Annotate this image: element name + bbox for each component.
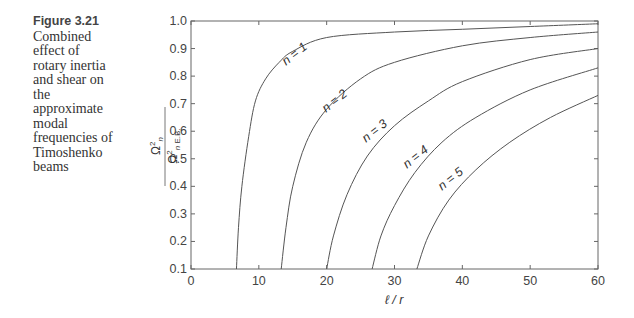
svg-text:Ω2n E.B.: Ω2n E.B. bbox=[165, 128, 182, 163]
x-tick-label: 60 bbox=[591, 274, 605, 288]
x-tick-label: 10 bbox=[252, 274, 266, 288]
y-tick-label: 0.9 bbox=[170, 42, 187, 56]
x-tick-label: 20 bbox=[320, 274, 334, 288]
curve-label-n3: n = 3 bbox=[359, 117, 390, 145]
curves: n = 1n = 2n = 3n = 4n = 5 bbox=[236, 24, 598, 269]
curve-n3 bbox=[327, 49, 598, 269]
x-tick-label: 40 bbox=[455, 274, 469, 288]
y-tick-label: 1.0 bbox=[170, 14, 187, 28]
line-chart: 01020304050600.10.20.30.40.50.60.70.80.9… bbox=[0, 0, 634, 318]
y-axis-label: Ω2n Ω2n E.B. bbox=[148, 107, 182, 186]
y-tick-label: 0.8 bbox=[170, 69, 187, 83]
x-axis-label: ℓ / r bbox=[385, 293, 404, 307]
curve-label-n1: n = 1 bbox=[279, 40, 310, 68]
y-tick-label: 0.3 bbox=[170, 207, 187, 221]
axes: 01020304050600.10.20.30.40.50.60.70.80.9… bbox=[170, 14, 605, 288]
x-tick-label: 50 bbox=[523, 274, 537, 288]
curve-label-n4: n = 4 bbox=[400, 143, 431, 171]
x-tick-label: 30 bbox=[388, 274, 402, 288]
y-tick-label: 0.2 bbox=[170, 234, 187, 248]
y-tick-label: 0.7 bbox=[170, 97, 187, 111]
y-tick-label: 0.4 bbox=[170, 179, 187, 193]
svg-text:Ω2n: Ω2n bbox=[148, 137, 165, 155]
curve-label-n5: n = 5 bbox=[435, 165, 466, 193]
y-tick-label: 0.1 bbox=[170, 262, 187, 276]
curve-n2 bbox=[281, 32, 598, 269]
x-tick-label: 0 bbox=[188, 274, 195, 288]
